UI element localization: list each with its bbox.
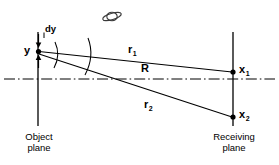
- arrow-up-head-icon: [36, 55, 42, 61]
- receiving-plane-label: Receiving plane: [192, 131, 276, 153]
- point-x2-label: x2: [239, 109, 249, 120]
- point-x2-subscript: 2: [246, 115, 250, 122]
- ray-r1-subscript: 1: [133, 50, 137, 57]
- diffraction-geometry-figure: y dy R r1 r2 x1 x2 Object plane Receivin…: [0, 0, 279, 165]
- wavefront-arc-near: [54, 42, 58, 68]
- point-x1-subscript: 1: [246, 70, 250, 77]
- ray-r2-subscript: 2: [149, 105, 153, 112]
- saturn-planet-icon: [102, 11, 122, 23]
- source-point-dot: [36, 49, 41, 54]
- distance-R-label: R: [141, 63, 149, 74]
- ray-r2-label: r2: [144, 99, 152, 110]
- point-x2-dot: [230, 114, 235, 119]
- point-x1-label: x1: [239, 64, 249, 75]
- ray-r2-line: [39, 54, 232, 117]
- ray-r1-label: r1: [128, 44, 136, 55]
- ray-r1-base: r: [128, 43, 132, 55]
- object-plane-label: Object plane: [0, 131, 78, 153]
- point-x1-base: x: [239, 63, 245, 75]
- point-x1-dot: [230, 69, 235, 74]
- source-point-label: y: [24, 45, 30, 56]
- dy-label: dy: [45, 24, 56, 34]
- ray-r2-base: r: [144, 98, 148, 110]
- point-x2-base: x: [239, 108, 245, 120]
- arrow-down-head-icon: [36, 42, 42, 48]
